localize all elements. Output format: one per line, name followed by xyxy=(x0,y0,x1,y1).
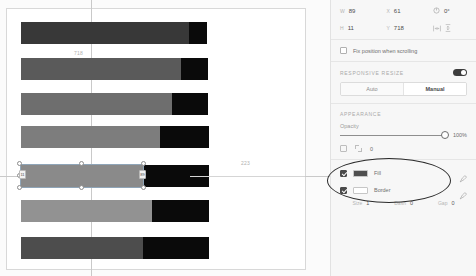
bar-cap xyxy=(181,58,208,80)
properties-panel: W 89 X 61 0° H 11 xyxy=(330,0,476,276)
bar-row[interactable] xyxy=(21,93,208,115)
border-eyedropper-icon[interactable] xyxy=(459,186,467,194)
opacity-label: Opacity xyxy=(340,123,467,129)
border-row[interactable]: Border xyxy=(340,186,467,194)
fill-row[interactable]: Fill xyxy=(340,169,467,177)
bar-cap xyxy=(172,93,208,115)
border-checkbox[interactable] xyxy=(340,187,347,194)
responsive-resize-toggle[interactable] xyxy=(453,69,467,76)
opacity-value: 100% xyxy=(451,132,467,138)
stroke-size-label: Size xyxy=(352,200,362,206)
bar-row[interactable] xyxy=(21,58,208,80)
y-value: 718 xyxy=(394,25,404,31)
resize-handle-bottom-left[interactable] xyxy=(17,185,22,190)
resize-handle-bottom-center[interactable] xyxy=(79,185,84,190)
flip-vertical-icon xyxy=(445,24,451,32)
corner-radius-icon[interactable] xyxy=(340,145,347,152)
appearance-section: Appearance Opacity 100% 0 xyxy=(331,104,476,160)
bar-body xyxy=(21,126,160,148)
bar-row[interactable] xyxy=(21,126,209,148)
responsive-resize-section: Responsive resize Auto Manual xyxy=(331,62,476,104)
bar-cap xyxy=(143,237,209,259)
width-field[interactable]: W 89 xyxy=(340,8,380,14)
app-window: 11 89 718 223 W 89 X 61 xyxy=(0,0,476,276)
stroke-dash-value: 0 xyxy=(410,200,413,206)
stroke-dash-label: Dash xyxy=(394,200,406,206)
bar-cap xyxy=(189,22,207,44)
corner-radius-value: 0 xyxy=(370,146,373,152)
bar-row[interactable] xyxy=(21,237,209,259)
bar-row[interactable] xyxy=(21,22,207,44)
fill-color-swatch[interactable] xyxy=(353,170,368,177)
width-value: 89 xyxy=(349,8,356,14)
fix-position-row[interactable]: Fix position when scrolling xyxy=(340,47,467,54)
x-value: 61 xyxy=(394,8,401,14)
height-label: H xyxy=(340,25,344,31)
fix-position-checkbox[interactable] xyxy=(340,47,347,54)
opacity-slider-track[interactable] xyxy=(340,135,445,136)
dimensions-section: W 89 X 61 0° H 11 xyxy=(331,0,476,40)
measure-rule-right xyxy=(190,176,305,177)
rotation-icon xyxy=(433,7,440,14)
dimensions-row-2: H 11 Y 718 xyxy=(340,24,467,32)
fix-position-section: Fix position when scrolling xyxy=(331,40,476,62)
bar-body xyxy=(21,22,189,44)
bar-body xyxy=(21,58,181,80)
border-color-swatch[interactable] xyxy=(353,187,368,194)
fill-eyedropper-icon[interactable] xyxy=(459,169,467,177)
selection-left-badge: 11 xyxy=(19,170,26,179)
resize-handle-top-center[interactable] xyxy=(79,161,84,166)
x-field[interactable]: X 61 xyxy=(387,8,427,14)
bar-body xyxy=(21,237,143,259)
fill-checkbox[interactable] xyxy=(340,170,347,177)
border-label: Border xyxy=(374,187,453,193)
opacity-slider-knob[interactable] xyxy=(441,131,449,139)
height-value: 11 xyxy=(348,25,354,31)
stroke-settings-row: Size 1 Dash 0 Gap 0 xyxy=(340,198,467,206)
corner-row: 0 xyxy=(340,145,467,152)
stroke-dash-field[interactable]: Dash 0 xyxy=(394,200,413,206)
fix-position-label: Fix position when scrolling xyxy=(353,48,417,54)
fill-label: Fill xyxy=(374,170,453,176)
responsive-resize-header: Responsive resize xyxy=(340,69,467,76)
responsive-resize-title: Responsive resize xyxy=(340,70,404,76)
responsive-mode-manual[interactable]: Manual xyxy=(403,83,466,95)
resize-handle-bottom-right[interactable] xyxy=(141,185,146,190)
stroke-gap-value: 0 xyxy=(451,200,454,206)
responsive-mode-auto[interactable]: Auto xyxy=(341,83,403,95)
stroke-size-value: 1 xyxy=(366,200,369,206)
flip-field[interactable] xyxy=(433,24,467,32)
bar-body xyxy=(21,93,172,115)
design-canvas[interactable]: 11 89 718 223 xyxy=(0,0,330,276)
measure-label-top: 718 xyxy=(74,50,83,56)
stroke-gap-label: Gap xyxy=(438,200,447,206)
bar-cap xyxy=(152,200,209,222)
bar-body xyxy=(21,200,152,222)
height-field[interactable]: H 11 xyxy=(340,25,380,31)
resize-handle-top-right[interactable] xyxy=(141,161,146,166)
independent-corners-icon[interactable] xyxy=(355,145,362,152)
opacity-slider-row[interactable]: 100% xyxy=(340,132,467,138)
flip-horizontal-icon xyxy=(433,25,441,32)
rotation-value: 0° xyxy=(444,8,450,14)
width-label: W xyxy=(340,8,345,14)
selection-right-badge: 89 xyxy=(139,170,146,179)
paint-section: Fill Border Size 1 Dash xyxy=(331,160,476,211)
dimensions-row-1: W 89 X 61 0° xyxy=(340,7,467,14)
stroke-size-field[interactable]: Size 1 xyxy=(352,200,369,206)
resize-handle-top-left[interactable] xyxy=(17,161,22,166)
bar-cap xyxy=(160,126,209,148)
responsive-resize-mode-group[interactable]: Auto Manual xyxy=(340,82,467,96)
appearance-title: Appearance xyxy=(340,111,467,117)
y-label: Y xyxy=(387,25,390,31)
rotation-field[interactable]: 0° xyxy=(433,7,467,14)
bar-row[interactable] xyxy=(21,200,209,222)
measure-label-right: 223 xyxy=(241,160,250,166)
stroke-gap-field[interactable]: Gap 0 xyxy=(438,200,455,206)
x-label: X xyxy=(387,8,390,14)
y-field[interactable]: Y 718 xyxy=(387,25,427,31)
